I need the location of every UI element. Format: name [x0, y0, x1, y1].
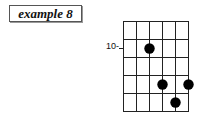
finger-dot-string3-fret2: [144, 43, 154, 53]
finger-dot-string4-fret4: [157, 79, 167, 89]
chord-diagram: [0, 0, 202, 117]
finger-dot-string6-fret4: [183, 79, 193, 89]
finger-dot-string5-fret5: [170, 97, 180, 107]
